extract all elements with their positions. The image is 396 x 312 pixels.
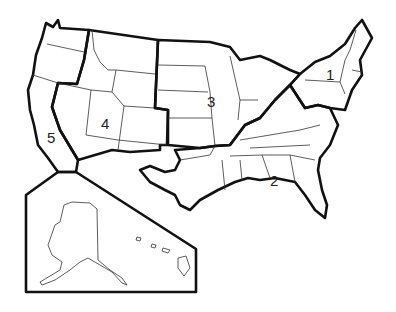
region-1-outline bbox=[290, 20, 372, 110]
region-label-5: 5 bbox=[47, 129, 55, 146]
region-3-outline bbox=[155, 40, 300, 148]
region-label-4: 4 bbox=[101, 115, 109, 132]
inset-frame bbox=[26, 172, 196, 292]
washington-oregon-border bbox=[47, 44, 84, 52]
region-label-3: 3 bbox=[207, 93, 215, 110]
region-2-outline bbox=[140, 85, 338, 218]
region-label-1: 1 bbox=[326, 66, 334, 83]
hawaii-islands bbox=[136, 237, 190, 276]
region-5-outline bbox=[28, 20, 89, 172]
alaska-outline bbox=[40, 202, 127, 285]
southeast-state-borders bbox=[180, 125, 320, 190]
region-label-2: 2 bbox=[270, 172, 278, 189]
us-regions-map: 1 2 3 4 5 bbox=[0, 0, 396, 312]
oregon-california-border bbox=[33, 75, 58, 83]
region-4-outline bbox=[52, 30, 168, 160]
wyoming-border bbox=[112, 70, 155, 108]
